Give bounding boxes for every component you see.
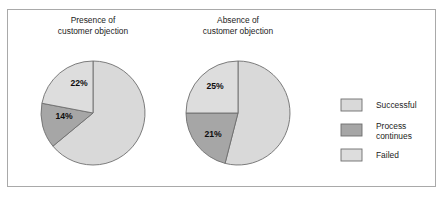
panel-presence-title-line2: customer objection: [58, 26, 129, 36]
panel-absence-title-line2: customer objection: [203, 26, 274, 36]
legend-label-process-continues-line2: continues: [376, 131, 412, 141]
legend: Successful Process continues Failed: [341, 99, 417, 161]
legend-item-failed: Failed: [341, 149, 399, 161]
pie-label-absence-failed: 25%: [206, 81, 224, 91]
legend-swatch-failed: [341, 149, 362, 161]
pie-label-absence-process-continues: 21%: [204, 129, 222, 139]
legend-label-process-continues-line1: Process: [376, 121, 406, 131]
legend-item-process-continues: Process continues: [341, 121, 412, 141]
panel-presence-title-line1: Presence of: [71, 15, 116, 25]
legend-label-successful: Successful: [376, 100, 417, 110]
pie-chart-figure: Presence of customer objection 22% 14% A…: [0, 0, 445, 200]
figure-root: Presence of customer objection 22% 14% A…: [0, 0, 445, 200]
panel-presence: Presence of customer objection 22% 14%: [41, 15, 145, 165]
legend-item-successful: Successful: [341, 99, 417, 111]
legend-swatch-successful: [341, 99, 362, 111]
panel-absence: Absence of customer objection 25% 21%: [186, 15, 290, 165]
panel-absence-title-line1: Absence of: [217, 15, 260, 25]
legend-swatch-process-continues: [341, 124, 362, 136]
legend-label-failed: Failed: [376, 150, 399, 160]
pie-label-presence-process-continues: 14%: [55, 111, 73, 121]
pie-label-presence-failed: 22%: [70, 78, 88, 88]
